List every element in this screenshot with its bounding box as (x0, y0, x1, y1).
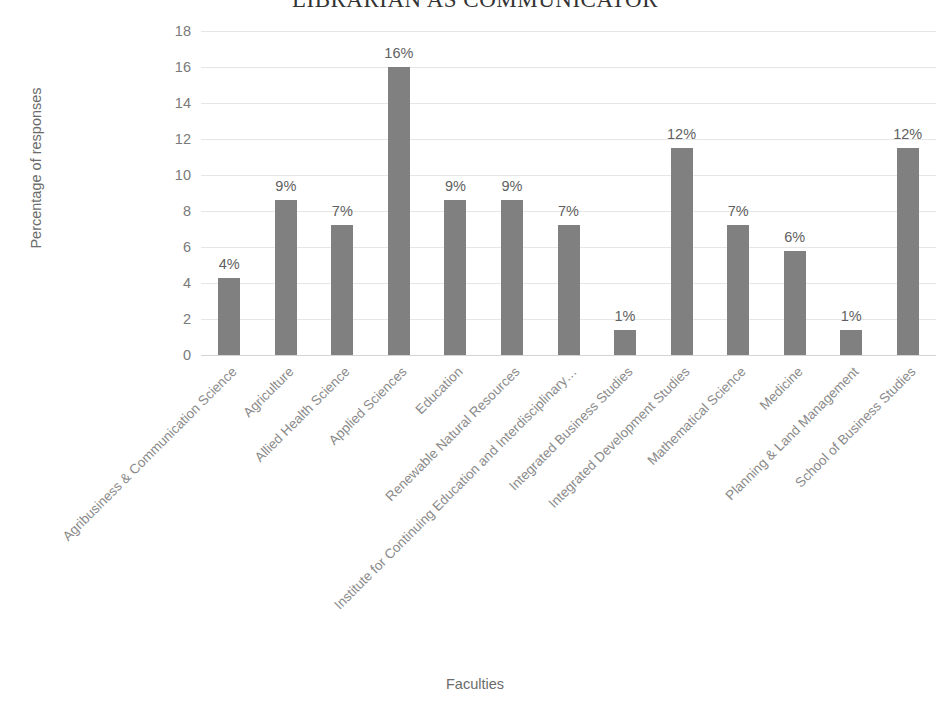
y-tick-label-10: 10 (153, 167, 191, 183)
y-tick-label-2: 2 (153, 311, 191, 327)
bar-value-label: 7% (332, 203, 353, 219)
y-tick-label-18: 18 (153, 23, 191, 39)
bar (331, 225, 353, 355)
bar-value-label: 9% (445, 178, 466, 194)
bar-value-label: 16% (384, 45, 413, 61)
bar (444, 200, 466, 355)
bar (671, 148, 693, 355)
bar (218, 278, 240, 355)
bar (897, 148, 919, 355)
bar (501, 200, 523, 355)
y-tick-label-0: 0 (153, 347, 191, 363)
bar-value-label: 4% (219, 256, 240, 272)
bar (558, 225, 580, 355)
bar-value-label: 7% (728, 203, 749, 219)
bar-value-label: 12% (893, 126, 922, 142)
bar (275, 200, 297, 355)
bars-layer: 4%9%7%16%9%9%7%1%12%7%6%1%12% (201, 31, 936, 355)
y-tick-label-4: 4 (153, 275, 191, 291)
y-tick-label-16: 16 (153, 59, 191, 75)
bar-value-label: 12% (667, 126, 696, 142)
bar (388, 67, 410, 355)
bar-value-label: 1% (615, 308, 636, 324)
x-axis-title: Faculties (0, 676, 950, 692)
gridline-0 (201, 355, 936, 356)
bar-value-label: 6% (784, 229, 805, 245)
y-tick-label-6: 6 (153, 239, 191, 255)
bar (840, 330, 862, 355)
plot-area: 024681012141618 4%9%7%16%9%9%7%1%12%7%6%… (201, 31, 936, 355)
x-axis-category-labels: Agribusiness & Communication ScienceAgri… (201, 358, 936, 658)
bar-value-label: 1% (841, 308, 862, 324)
bar-chart: LIBRARIAN AS COMMUNICATOR Percentage of … (0, 0, 950, 718)
y-axis-title: Percentage of responses (28, 78, 44, 258)
y-tick-label-8: 8 (153, 203, 191, 219)
y-tick-label-12: 12 (153, 131, 191, 147)
bar (727, 225, 749, 355)
bar (784, 251, 806, 355)
y-tick-label-14: 14 (153, 95, 191, 111)
bar-value-label: 9% (501, 178, 522, 194)
bar (614, 330, 636, 355)
bar-value-label: 9% (275, 178, 296, 194)
bar-value-label: 7% (558, 203, 579, 219)
chart-title: LIBRARIAN AS COMMUNICATOR (0, 0, 950, 13)
